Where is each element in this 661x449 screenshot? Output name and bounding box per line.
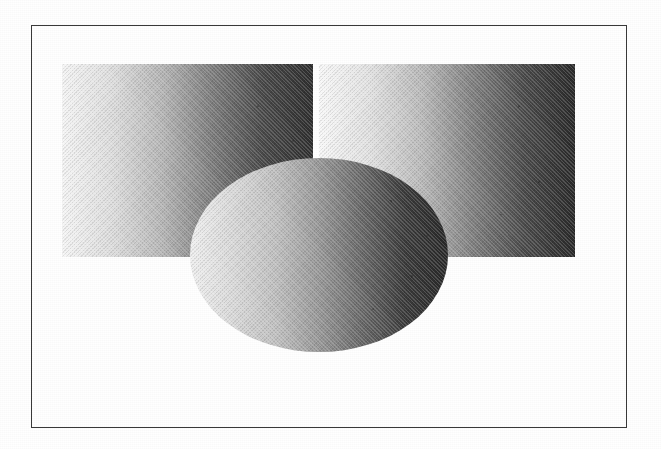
gradient-rectangle-left-label: Left gradient rectangle [62, 64, 63, 65]
gradient-rectangle-right-label: Right gradient rectangle [319, 64, 320, 65]
shape-canvas: Left gradient rectangle Right gradient r… [31, 25, 627, 428]
scan-speckle [190, 158, 448, 352]
figure-canvas: Shaded rectangles and sphere with horizo… [0, 0, 661, 449]
halftone-texture [190, 158, 448, 352]
figure-title: Shaded rectangles and sphere with horizo… [0, 21, 1, 22]
gradient-ellipse-sphere: Shaded sphere (ellipse) [190, 158, 448, 352]
